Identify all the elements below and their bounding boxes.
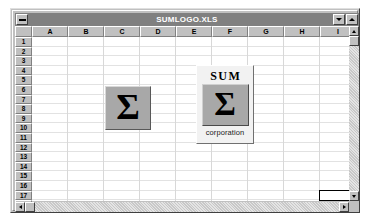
column-header-g[interactable]: G [248, 26, 284, 37]
gridline-vertical [67, 37, 68, 201]
gridline-horizontal [32, 46, 349, 47]
gridline-horizontal [32, 74, 349, 75]
vertical-scrollbar[interactable] [349, 26, 359, 201]
spreadsheet-window: SUMLOGO.XLS ABCDEFGHI 123456789101112131… [10, 8, 360, 213]
gridline-horizontal [32, 190, 349, 191]
row-header-9[interactable]: 9 [15, 114, 32, 124]
title-bar[interactable]: SUMLOGO.XLS [15, 13, 359, 26]
scrollbar-corner [349, 202, 359, 212]
gridline-vertical [175, 37, 176, 201]
column-header-f[interactable]: F [212, 26, 248, 37]
row-header-11[interactable]: 11 [15, 133, 32, 143]
minimize-button[interactable] [333, 14, 345, 25]
gridline-horizontal [32, 132, 349, 133]
scroll-down-button[interactable] [349, 191, 359, 201]
horizontal-scrollbar[interactable] [15, 202, 349, 212]
scroll-left-arrow-icon [19, 205, 22, 209]
horizontal-scroll-track[interactable] [25, 202, 339, 212]
column-header-c[interactable]: C [104, 26, 140, 37]
gridline-horizontal [32, 151, 349, 152]
row-header-10[interactable]: 10 [15, 123, 32, 133]
column-header-a[interactable]: A [32, 26, 68, 37]
vertical-scroll-track[interactable] [349, 36, 359, 191]
column-header-h[interactable]: H [284, 26, 320, 37]
row-header-6[interactable]: 6 [15, 85, 32, 95]
scroll-left-button[interactable] [15, 202, 25, 212]
column-header-e[interactable]: E [176, 26, 212, 37]
scroll-up-arrow-icon [352, 30, 356, 33]
row-header-17[interactable]: 17 [15, 191, 32, 201]
gridline-horizontal [32, 103, 349, 104]
scroll-right-arrow-icon [343, 205, 346, 209]
scroll-down-arrow-icon [352, 195, 356, 198]
selected-cell[interactable] [319, 190, 349, 201]
row-header-16[interactable]: 16 [15, 181, 32, 191]
row-header-2[interactable]: 2 [15, 47, 32, 57]
logo-sigma-box: Σ [202, 84, 249, 126]
scroll-right-button[interactable] [339, 202, 349, 212]
window-inner-frame: SUMLOGO.XLS ABCDEFGHI 123456789101112131… [12, 10, 358, 211]
maximize-icon [349, 18, 355, 21]
row-header-15[interactable]: 15 [15, 171, 32, 181]
select-all-corner-button[interactable] [15, 26, 32, 37]
logo-bottom-word: corporation [206, 127, 245, 139]
horizontal-scroll-thumb[interactable] [25, 202, 35, 212]
row-header-12[interactable]: 12 [15, 143, 32, 153]
gridline-vertical [283, 37, 284, 201]
maximize-button[interactable] [346, 14, 358, 25]
row-header-14[interactable]: 14 [15, 162, 32, 172]
window-title: SUMLOGO.XLS [15, 13, 359, 26]
column-header-b[interactable]: B [68, 26, 104, 37]
sum-corporation-logo-object[interactable]: SUM Σ corporation [196, 65, 254, 144]
row-header-5[interactable]: 5 [15, 75, 32, 85]
gridline-vertical [103, 37, 104, 201]
sigma-icon: Σ [116, 89, 140, 125]
gridline-horizontal [32, 65, 349, 66]
gridline-horizontal [32, 142, 349, 143]
row-header-8[interactable]: 8 [15, 104, 32, 114]
gridline-horizontal [32, 161, 349, 162]
row-header-1[interactable]: 1 [15, 37, 32, 47]
gridline-horizontal [32, 199, 349, 200]
gridline-horizontal [32, 180, 349, 181]
gridline-horizontal [32, 84, 349, 85]
cell-grid[interactable]: Σ SUM Σ corporation [32, 37, 349, 201]
gridline-horizontal [32, 122, 349, 123]
column-header-d[interactable]: D [140, 26, 176, 37]
row-header-4[interactable]: 4 [15, 66, 32, 76]
logo-top-word: SUM [209, 69, 242, 83]
vertical-scroll-thumb[interactable] [349, 36, 359, 46]
sigma-icon: Σ [214, 88, 236, 121]
row-header-13[interactable]: 13 [15, 152, 32, 162]
gridline-horizontal [32, 55, 349, 56]
gridline-horizontal [32, 113, 349, 114]
gridline-horizontal [32, 170, 349, 171]
column-header-row: ABCDEFGHI [32, 26, 356, 37]
gridline-horizontal [32, 94, 349, 95]
gridline-vertical [319, 37, 320, 201]
sigma-logo-object[interactable]: Σ [105, 86, 151, 130]
minimize-icon [336, 18, 342, 21]
row-header-column: 123456789101112131415161718 [15, 37, 32, 210]
spreadsheet-area: ABCDEFGHI 123456789101112131415161718 Σ … [15, 26, 359, 212]
scroll-up-button[interactable] [349, 26, 359, 36]
row-header-3[interactable]: 3 [15, 56, 32, 66]
row-header-7[interactable]: 7 [15, 95, 32, 105]
